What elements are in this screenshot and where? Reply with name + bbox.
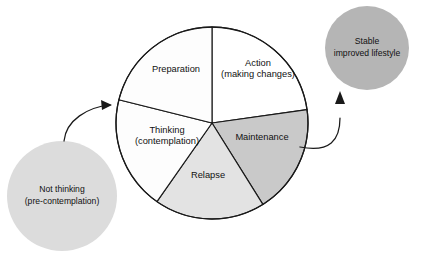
segment-label-action-line2: (making changes) bbox=[221, 69, 295, 79]
segment-label-thinking-line2: (contemplation) bbox=[135, 136, 199, 146]
segment-label-maintenance-line1: Maintenance bbox=[235, 132, 288, 142]
segment-label-thinking-line1: Thinking bbox=[149, 125, 184, 135]
segment-label-relapse-line1: Relapse bbox=[191, 170, 225, 180]
diagram-canvas: Not thinking (pre-contemplation) Stable … bbox=[0, 0, 430, 253]
cycle-of-change-diagram: Not thinking (pre-contemplation) Stable … bbox=[0, 0, 430, 253]
stable-lifestyle-label-line1: Stable bbox=[355, 36, 380, 46]
wheel-segments bbox=[116, 27, 308, 219]
segment-label-preparation-line1: Preparation bbox=[152, 64, 200, 74]
segment-label-action-line1: Action bbox=[245, 58, 271, 68]
not-thinking-label-line2: (pre-contemplation) bbox=[25, 196, 100, 206]
not-thinking-label-line1: Not thinking bbox=[39, 184, 85, 194]
node-stable-lifestyle[interactable]: Stable improved lifestyle bbox=[325, 6, 409, 90]
stable-lifestyle-label-line2: improved lifestyle bbox=[334, 48, 401, 58]
node-not-thinking[interactable]: Not thinking (pre-contemplation) bbox=[7, 141, 117, 251]
